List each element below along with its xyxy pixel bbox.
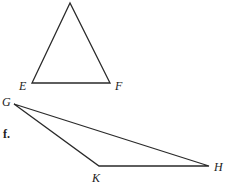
vertex-label-f: F	[114, 79, 123, 93]
vertex-label-k: K	[91, 171, 101, 185]
triangle-ef	[32, 3, 110, 83]
vertex-label-e: E	[18, 79, 27, 93]
vertex-label-g: G	[2, 95, 11, 109]
part-label: f.	[3, 127, 10, 141]
triangle-gkh	[14, 104, 209, 166]
diagram-canvas: E F G K H f.	[0, 0, 230, 186]
vertex-label-h: H	[213, 160, 224, 174]
